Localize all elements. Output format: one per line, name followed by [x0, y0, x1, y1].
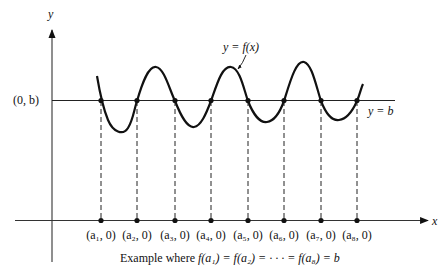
diagram: y x (0, b) y = b y = f(x) (a₁, 0) (a₂, 0… — [0, 0, 441, 278]
point-label: (a₃, 0) — [160, 228, 190, 242]
point-label: (a₅, 0) — [233, 228, 263, 242]
point-labels: (a₁, 0) (a₂, 0) (a₃, 0) (a₄, 0) (a₅, 0) … — [86, 228, 372, 242]
point-label: (a₁, 0) — [86, 228, 116, 242]
caption-expression: f(a₁) = f(a₂) = · · · = f(a₈) = b — [198, 251, 340, 265]
caption-prefix: Example where — [120, 251, 198, 265]
y-axis-label: y — [47, 7, 54, 21]
caption: Example where f(a₁) = f(a₂) = · · · = f(… — [120, 251, 340, 265]
intersection-guides — [101, 101, 357, 220]
y-intercept-label: (0, b) — [13, 93, 39, 107]
line-label: y = b — [367, 104, 393, 118]
point-label: (a₇, 0) — [306, 228, 336, 242]
curve-label-arrow — [238, 55, 246, 69]
point-label: (a₆, 0) — [269, 228, 299, 242]
point-label: (a₂, 0) — [122, 228, 152, 242]
point-label: (a₈, 0) — [342, 228, 372, 242]
point-label: (a₄, 0) — [196, 228, 226, 242]
x-axis-label: x — [431, 214, 438, 228]
curve-label: y = f(x) — [222, 40, 259, 54]
